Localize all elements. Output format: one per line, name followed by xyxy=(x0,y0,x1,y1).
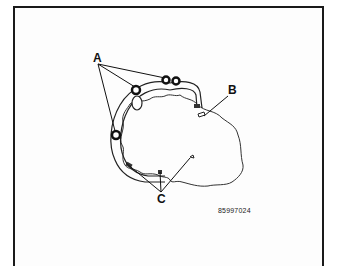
clip-a1 xyxy=(132,86,140,94)
label-b: B xyxy=(228,83,237,97)
label-a: A xyxy=(93,51,102,65)
clip-a3 xyxy=(173,78,180,85)
part-number: 85997024 xyxy=(218,207,251,214)
connector-oval xyxy=(132,96,142,110)
clip-a4 xyxy=(112,131,120,139)
label-c: C xyxy=(157,192,166,206)
